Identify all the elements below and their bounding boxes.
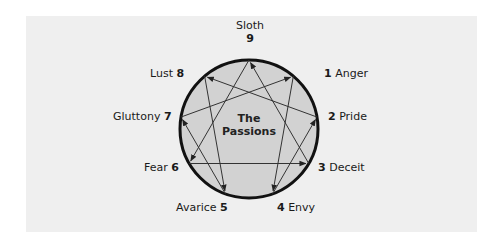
diagram-title: The Passions xyxy=(214,112,284,138)
point-4-name: Envy xyxy=(288,201,315,214)
point-7-name: Gluttony xyxy=(113,110,160,123)
point-9-name: Sloth xyxy=(233,19,267,32)
point-2-number: 2 xyxy=(328,110,336,123)
point-7-number: 7 xyxy=(164,110,172,123)
label-point-5: Avarice 5 xyxy=(176,201,228,214)
label-point-1: 1 Anger xyxy=(324,67,368,80)
point-1-name: Anger xyxy=(335,67,368,80)
label-point-3: 3 Deceit xyxy=(318,161,365,174)
label-point-2: 2 Pride xyxy=(328,110,367,123)
point-4-number: 4 xyxy=(277,201,285,214)
point-6-number: 6 xyxy=(171,161,179,174)
point-3-number: 3 xyxy=(318,161,326,174)
point-3-name: Deceit xyxy=(329,161,364,174)
label-point-4: 4 Envy xyxy=(277,201,315,214)
point-8-name: Lust xyxy=(150,67,173,80)
point-5-name: Avarice xyxy=(176,201,217,214)
point-6-name: Fear xyxy=(144,161,168,174)
point-8-number: 8 xyxy=(176,67,184,80)
point-9-number: 9 xyxy=(233,32,267,45)
point-1-number: 1 xyxy=(324,67,332,80)
point-5-number: 5 xyxy=(220,201,228,214)
label-point-9: Sloth 9 xyxy=(233,19,267,45)
point-2-name: Pride xyxy=(339,110,367,123)
title-line-2: Passions xyxy=(214,125,284,138)
title-line-1: The xyxy=(214,112,284,125)
label-point-7: Gluttony 7 xyxy=(113,110,172,123)
label-point-6: Fear 6 xyxy=(144,161,179,174)
label-point-8: Lust 8 xyxy=(150,67,184,80)
